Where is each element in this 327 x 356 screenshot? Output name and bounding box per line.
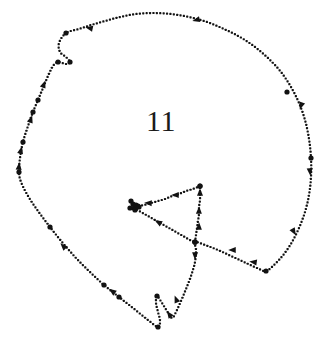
node-marker [16,169,21,174]
paths-layer [18,12,312,328]
direction-arrowhead [16,162,23,170]
node-marker [136,204,141,209]
node-marker [192,239,197,244]
direction-arrowhead [192,252,198,260]
direction-arrowhead [228,247,236,253]
node-marker [155,324,160,329]
node-marker [197,183,202,188]
node-marker [101,282,106,287]
nodes-layer [16,30,313,329]
inner-triangle-lower-edge [136,209,194,243]
figure-canvas: 11 [0,0,327,356]
direction-arrowhead [85,24,94,31]
node-marker [67,59,72,64]
direction-arrowhead [196,206,202,214]
node-marker [154,293,159,298]
outer-contour [18,12,312,328]
figure-number-label: 11 [146,106,176,136]
node-marker [20,139,25,144]
node-marker [130,201,135,206]
node-marker [63,30,68,35]
node-marker [263,268,268,273]
node-marker [35,97,40,102]
node-marker [116,294,121,299]
node-marker [308,155,313,160]
node-marker [47,224,52,229]
direction-arrowhead [172,294,180,303]
node-marker [30,109,35,114]
dotted-contour-drawing [0,0,327,356]
node-marker [284,89,289,94]
direction-arrowhead [197,188,203,196]
direction-arrowhead [171,192,179,198]
direction-arrowhead [27,114,35,123]
node-marker [55,59,60,64]
